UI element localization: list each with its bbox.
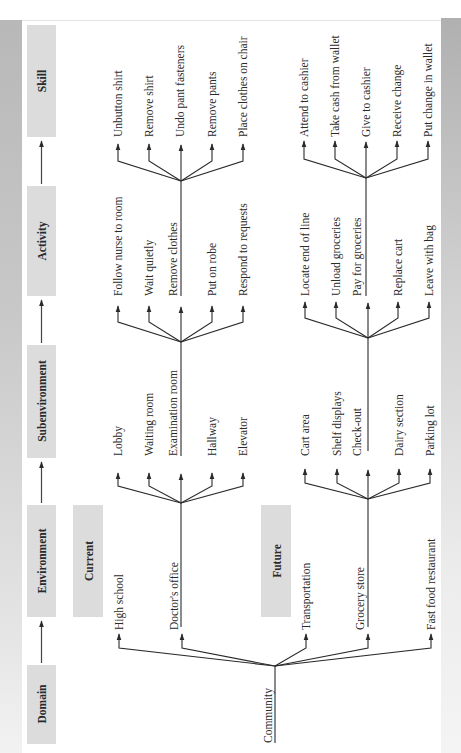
header-label-activity: Activity bbox=[36, 221, 49, 260]
header-label-domain: Domain bbox=[36, 684, 48, 724]
grocery-store-branch bbox=[305, 469, 430, 627]
group-label-future: Future bbox=[271, 544, 283, 578]
activity-leave-with-bag: Leave with bag bbox=[423, 225, 436, 296]
header-label-subenvironment: Subenvironment bbox=[36, 360, 48, 442]
subenvironment-examination-room: Examination room bbox=[167, 370, 179, 456]
skill-receive-change: Receive change bbox=[391, 65, 404, 137]
activity-wait-quietly: Wait quietly bbox=[143, 240, 156, 296]
activity-put-on-robe: Put on robe bbox=[206, 243, 218, 296]
check-out-branch bbox=[305, 302, 429, 451]
subenvironment-waiting-room: Waiting room bbox=[143, 393, 156, 456]
environment-transportation: Transportation bbox=[300, 562, 313, 630]
subenvironment-dairy-section: Dairy section bbox=[393, 394, 406, 456]
skill-undo-pant-fasteners: Undo pant fasteners bbox=[174, 45, 187, 137]
skill-unbutton-shirt: Unbutton shirt bbox=[112, 69, 124, 137]
activity-respond-to-requests: Respond to requests bbox=[237, 203, 250, 296]
skill-place-clothes-on-chair: Place clothes on chair bbox=[237, 36, 249, 137]
skill-remove-shirt: Remove shirt bbox=[143, 75, 155, 137]
hierarchy-diagram: Skill Activity Subenvironment Environmen… bbox=[0, 0, 461, 753]
subenvironment-elevator: Elevator bbox=[237, 417, 249, 456]
environment-high-school: High school bbox=[113, 574, 126, 630]
activity-replace-cart: Replace cart bbox=[392, 238, 405, 296]
domain-label-community: Community bbox=[262, 688, 275, 743]
environment-grocery-store: Grocery store bbox=[354, 567, 367, 630]
remove-clothes-branch bbox=[118, 144, 243, 296]
header-label-skill: Skill bbox=[36, 70, 48, 92]
subenvironment-check-out: Check-out bbox=[351, 407, 363, 456]
environment-fast-food-restaurant: Fast food restaurant bbox=[425, 538, 437, 630]
pay-for-groceries-branch bbox=[304, 141, 428, 296]
subenvironment-hallway: Hallway bbox=[206, 417, 219, 456]
environment-doctors-office: Doctor's office bbox=[168, 562, 180, 630]
skill-give-to-cashier: Give to cashier bbox=[360, 67, 372, 137]
activity-locate-end-of-line: Locate end of line bbox=[299, 213, 311, 296]
activity-unload-groceries: Unload groceries bbox=[330, 217, 343, 296]
subenvironment-shelf-displays: Shelf displays bbox=[331, 391, 344, 456]
subenvironment-parking-lot: Parking lot bbox=[424, 404, 437, 456]
activity-remove-clothes: Remove clothes bbox=[167, 222, 179, 296]
skill-attend-to-cashier: Attend to cashier bbox=[298, 58, 310, 137]
header-flow: Skill Activity Subenvironment Environmen… bbox=[27, 25, 56, 744]
examination-room-branch bbox=[118, 306, 243, 456]
activity-pay-for-groceries: Pay for groceries bbox=[351, 217, 364, 296]
skill-remove-pants: Remove pants bbox=[206, 71, 219, 137]
skill-take-cash-from-wallet: Take cash from wallet bbox=[329, 35, 341, 137]
header-label-environment: Environment bbox=[36, 528, 48, 593]
subenvironment-lobby: Lobby bbox=[112, 426, 125, 456]
activity-follow-nurse: Follow nurse to room bbox=[112, 197, 124, 296]
skill-put-change-in-wallet: Put change in wallet bbox=[422, 43, 435, 137]
group-label-current: Current bbox=[83, 541, 95, 581]
doctors-office-branch bbox=[118, 473, 243, 627]
domain-branch bbox=[119, 634, 431, 743]
subenvironment-cart-area: Cart area bbox=[299, 414, 311, 456]
